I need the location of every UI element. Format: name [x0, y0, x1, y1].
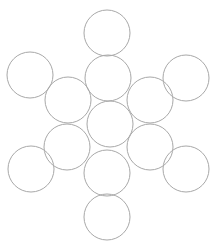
circle-inner-upper-right: [127, 77, 173, 123]
circle-bottom: [84, 194, 130, 240]
circle-lower-middle: [84, 150, 130, 196]
circle-inner-lower-right: [127, 124, 173, 170]
circle-packing-svg: [0, 0, 215, 246]
circle-lower-left-outer: [8, 146, 54, 192]
circle-upper-middle: [85, 55, 131, 101]
circle-packing-figure: [0, 0, 215, 246]
circle-inner-lower-left: [44, 124, 90, 170]
circle-top: [84, 10, 130, 56]
circle-center: [87, 101, 133, 147]
circle-lower-right-outer: [163, 146, 209, 192]
circle-upper-left-outer: [7, 52, 53, 98]
circle-upper-right-outer: [163, 55, 209, 101]
circle-inner-upper-left: [45, 77, 91, 123]
